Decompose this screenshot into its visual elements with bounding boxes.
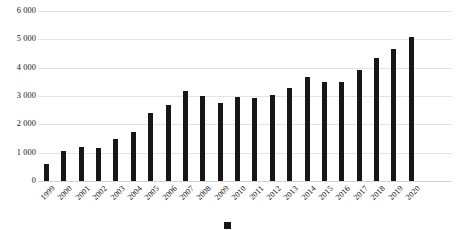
bar [183,91,188,181]
bar [339,82,344,181]
x-axis-tick-label: 2011 [248,184,266,202]
x-axis-tick-label: 2012 [265,184,283,202]
x-axis-tick-label: 2003 [108,184,126,202]
bar [131,132,136,181]
bar-chart-plot-area: 01 0002 0003 0004 0005 0006 000 19992000… [0,0,460,230]
x-axis-tick-label: 2015 [317,184,335,202]
x-axis-tick-label: 2002 [91,184,109,202]
gridline [38,11,452,12]
x-axis-tick-label: 2010 [230,184,248,202]
bar [235,97,240,181]
bar [96,148,101,181]
gridline [38,124,452,125]
x-axis-tick-label: 2020 [404,184,422,202]
x-axis-tick-label: 2005 [143,184,161,202]
x-axis-tick-label: 2009 [213,184,231,202]
bar [322,82,327,181]
y-axis-tick-label: 6 000 [0,7,36,15]
gridline [38,181,452,182]
bar [44,164,49,181]
x-axis-tick-label: 2006 [160,184,178,202]
bar [218,103,223,181]
bar [374,58,379,181]
figure: 01 0002 0003 0004 0005 0006 000 19992000… [0,0,460,230]
x-axis-tick-label: 2018 [369,184,387,202]
gridline [38,96,452,97]
bar [252,98,257,181]
x-axis-tick-label: 1999 [39,184,57,202]
x-axis-tick-label: 2016 [334,184,352,202]
x-axis-tick-label: 2014 [299,184,317,202]
bar [391,49,396,181]
bar [270,95,275,181]
x-axis-tick-label: 2000 [56,184,74,202]
x-axis-tick-label: 2004 [126,184,144,202]
x-axis-tick-label: 2013 [282,184,300,202]
bar [148,113,153,181]
y-axis-tick-label: 2 000 [0,120,36,128]
bar [200,96,205,181]
x-axis-tick-label: 2001 [74,184,92,202]
bar [409,37,414,181]
bar [305,77,310,181]
gridline [38,68,452,69]
y-axis-tick-label: 5 000 [0,35,36,43]
bar [287,88,292,181]
bar [357,70,362,181]
x-axis-tick-label: 2019 [386,184,404,202]
bar [113,139,118,182]
caption-marker-icon [224,222,231,229]
y-axis-tick-label: 3 000 [0,92,36,100]
bar [61,151,66,181]
figure-caption [0,221,460,230]
x-axis-tick-label: 2007 [178,184,196,202]
y-axis-tick-label: 4 000 [0,64,36,72]
y-axis-tick-label: 0 [0,177,36,185]
y-axis-tick-label: 1 000 [0,149,36,157]
x-axis-tick-label: 2008 [195,184,213,202]
gridline [38,39,452,40]
bar [166,105,171,181]
bar [79,147,84,181]
x-axis-tick-label: 2017 [352,184,370,202]
